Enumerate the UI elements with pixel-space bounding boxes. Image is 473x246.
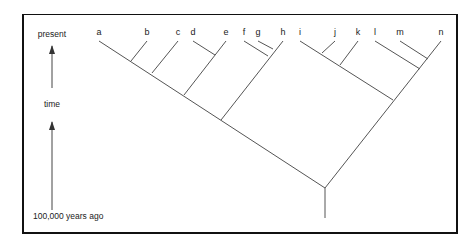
tip-label-e: e [223, 27, 228, 37]
tree-branch [244, 41, 268, 56]
tip-label-j: j [333, 27, 336, 37]
phylogeny-figure: present time 100,000 years ago abcdefghi… [0, 0, 473, 246]
tree-branch [258, 41, 273, 49]
time-label: time [44, 99, 60, 109]
tree-branch [221, 41, 283, 120]
tree-branch [375, 41, 420, 69]
tree-branch [400, 41, 428, 59]
tip-label-l: l [374, 27, 376, 37]
tip-label-c: c [176, 27, 181, 37]
tree-branch [322, 41, 335, 53]
tip-label-f: f [243, 27, 246, 37]
tree-branch [131, 41, 147, 61]
present-label: present [38, 29, 67, 39]
tree-tip-labels: abcdefghijklmn [96, 27, 443, 37]
time-axis: present time 100,000 years ago [33, 29, 104, 221]
tree-branch [340, 41, 358, 65]
tree-branch [99, 41, 325, 188]
tip-label-a: a [96, 27, 101, 37]
tip-label-b: b [144, 27, 149, 37]
phylogenetic-tree-canvas: present time 100,000 years ago abcdefghi… [0, 0, 473, 246]
tree-branches [99, 41, 441, 218]
tip-label-h: h [280, 27, 285, 37]
arrowhead-icon [49, 121, 55, 130]
tree-branch [325, 41, 441, 188]
tip-label-n: n [438, 27, 443, 37]
tip-label-d: d [190, 27, 195, 37]
tip-label-g: g [255, 27, 260, 37]
arrowhead-icon [49, 45, 55, 54]
past-label: 100,000 years ago [33, 211, 104, 221]
tip-label-k: k [356, 27, 361, 37]
tree-branch [152, 41, 178, 73]
tip-label-i: i [299, 27, 301, 37]
tip-label-m: m [396, 27, 404, 37]
tree-branch [300, 41, 393, 100]
tree-branch [193, 41, 215, 55]
